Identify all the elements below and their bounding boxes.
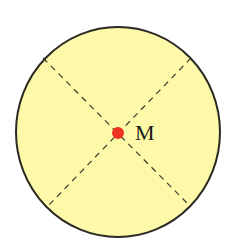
circle-diagram (0, 0, 237, 250)
diagram-stage: M (0, 0, 237, 250)
point-m-label: M (135, 122, 155, 144)
point-m-dot (112, 127, 124, 139)
